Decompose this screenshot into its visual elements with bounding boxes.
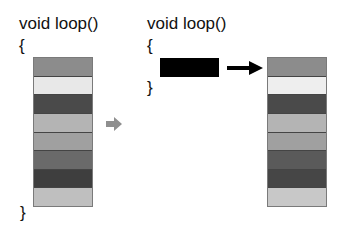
bar-stripe (268, 188, 326, 206)
bar-stripe (268, 133, 326, 152)
right-open-brace: { (147, 36, 153, 56)
left-code-header: void loop() (19, 14, 98, 34)
function-block (160, 58, 219, 77)
right-code-header: void loop() (147, 14, 226, 34)
bar-stripe (268, 58, 326, 77)
bar-stripe (34, 151, 92, 170)
left-stacked-bar (33, 57, 93, 207)
bar-stripe (268, 151, 326, 170)
right-stacked-bar (267, 57, 327, 207)
bar-stripe (34, 170, 92, 189)
bar-stripe (268, 170, 326, 189)
bar-stripe (34, 77, 92, 96)
bar-stripe (34, 133, 92, 152)
right-close-brace: } (147, 78, 153, 98)
bar-stripe (34, 95, 92, 114)
bar-stripe (34, 188, 92, 206)
bar-stripe (34, 58, 92, 77)
left-open-brace: { (19, 36, 25, 56)
bar-stripe (268, 95, 326, 114)
bar-stripe (268, 77, 326, 96)
left-close-brace: } (20, 203, 26, 223)
black-arrow-icon (227, 61, 263, 75)
right-arrow-icon (106, 117, 122, 131)
bar-stripe (268, 114, 326, 133)
bar-stripe (34, 114, 92, 133)
